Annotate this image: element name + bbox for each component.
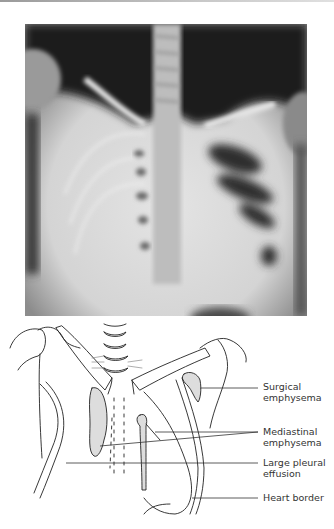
label-large-pleural-effusion: Large pleural effusion	[263, 457, 326, 479]
label-mediastinal-emphysema: Mediastinal emphysema	[263, 426, 322, 448]
chest-line-diagram: Surgical emphysema Mediastinal emphysema…	[0, 318, 334, 529]
label-pleural-line2: effusion	[263, 468, 326, 479]
chest-xray-image	[25, 24, 307, 316]
label-heart-border: Heart border	[263, 492, 324, 503]
top-rule	[0, 0, 334, 2]
label-surgical-emphysema: Surgical emphysema	[263, 381, 322, 403]
label-heart-line1: Heart border	[263, 492, 324, 503]
label-pleural-line1: Large pleural	[263, 457, 326, 468]
label-surgical-line2: emphysema	[263, 392, 322, 403]
label-mediastinal-line1: Mediastinal	[263, 426, 322, 437]
label-mediastinal-line2: emphysema	[263, 437, 322, 448]
label-surgical-line1: Surgical	[263, 381, 322, 392]
